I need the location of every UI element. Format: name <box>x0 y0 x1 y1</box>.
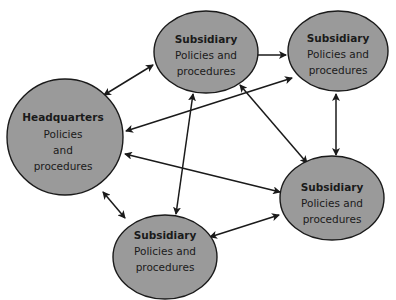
node-line: and <box>53 144 73 156</box>
node-line: Policies <box>44 128 83 140</box>
node-title: Subsidiary <box>301 181 364 193</box>
node-line: procedures <box>309 64 368 76</box>
edge-sub-top-mid-sub-right <box>240 85 307 163</box>
node-subsidiary-bottom: Subsidiary Policies and procedures <box>113 215 217 299</box>
node-title: Subsidiary <box>307 32 370 44</box>
node-subsidiary-top-right: Subsidiary Policies and procedures <box>288 11 388 91</box>
node-line: procedures <box>303 213 362 225</box>
node-subsidiary-top-middle: Subsidiary Policies and procedures <box>154 11 258 93</box>
node-line: Policies and <box>307 48 369 60</box>
node-subsidiary-right: Subsidiary Policies and procedures <box>280 156 384 240</box>
edge-sub-right-sub-bottom <box>210 215 279 237</box>
subsidiary-ellipse <box>113 215 217 299</box>
node-title: Subsidiary <box>175 33 238 45</box>
network-diagram: Headquarters Policies and procedures Sub… <box>0 0 396 300</box>
node-title: Headquarters <box>22 111 103 123</box>
node-line: Policies and <box>134 245 196 257</box>
node-line: procedures <box>177 65 236 77</box>
edge-hq-sub-top-mid <box>104 65 153 95</box>
node-line: Policies and <box>301 197 363 209</box>
edge-hq-sub-bottom <box>103 192 125 218</box>
node-line: procedures <box>136 261 195 273</box>
node-line: procedures <box>34 160 93 172</box>
node-title: Subsidiary <box>134 229 197 241</box>
node-headquarters: Headquarters Policies and procedures <box>7 79 123 195</box>
node-line: Policies and <box>175 49 237 61</box>
edge-hq-sub-right <box>125 154 280 192</box>
